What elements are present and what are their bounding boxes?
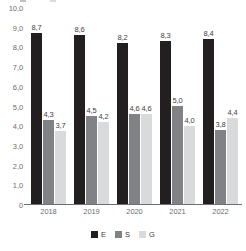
bar-slot-e: 8,4 [203,8,214,204]
chart-legend: ESG [0,231,246,239]
bar-e-2019[interactable]: 8,6 [74,35,85,204]
bar-value-label: 4,6 [141,104,151,113]
y-axis-tick: 1,0 [13,181,23,190]
bar-slot-g: 4,2 [98,8,109,204]
legend-label: S [125,231,130,239]
y-axis-tick: 0 [19,201,23,210]
y-axis-tick: 3,0 [13,141,23,150]
bar-slot-s: 3,8 [215,8,226,204]
x-axis-tick-2021: 2021 [156,207,199,216]
bar-e-2021[interactable]: 8,3 [160,41,171,204]
y-axis-tick: 2,0 [13,161,23,170]
bar-slot-g: 4,0 [184,8,195,204]
bar-value-label: 3,7 [55,121,65,130]
bar-slot-s: 4,5 [86,8,97,204]
x-axis-tick-2020: 2020 [113,207,156,216]
bar-slot-e: 8,2 [117,8,128,204]
bar-g-2021[interactable]: 4,0 [184,126,195,204]
bar-e-2022[interactable]: 8,4 [203,39,214,204]
cropped-legend-artifact [20,0,90,2]
bar-g-2020[interactable]: 4,6 [141,114,152,204]
y-axis-tick: 10,0 [9,4,23,13]
bar-s-2022[interactable]: 3,8 [215,130,226,204]
legend-item-g[interactable]: G [139,231,155,239]
bar-value-label: 8,7 [31,23,41,32]
bar-e-2018[interactable]: 8,7 [31,33,42,204]
bar-slot-g: 3,7 [55,8,66,204]
y-axis-tick: 7,0 [13,63,23,72]
legend-swatch-s-icon [115,231,122,238]
bar-s-2020[interactable]: 4,6 [129,114,140,204]
bar-slot-e: 8,7 [31,8,42,204]
bar-value-label: 4,5 [86,106,96,115]
bar-group: 8,64,54,2 [70,8,113,204]
bar-value-label: 4,2 [98,112,108,121]
legend-swatch-g-icon [139,231,146,238]
bar-group: 8,74,33,7 [27,8,70,204]
bar-value-label: 8,3 [160,31,170,40]
bar-groups: 8,74,33,78,64,54,28,24,64,68,35,04,08,43… [27,8,242,204]
bar-s-2019[interactable]: 4,5 [86,116,97,204]
y-axis-tick: 6,0 [13,82,23,91]
bar-slot-g: 4,6 [141,8,152,204]
plot-area: 8,74,33,78,64,54,28,24,64,68,35,04,08,43… [27,8,242,205]
bar-value-label: 4,0 [184,116,194,125]
y-axis: 10,09,08,07,06,05,04,03,02,01,00 [0,8,26,205]
bar-value-label: 8,6 [74,25,84,34]
legend-item-s[interactable]: S [115,231,130,239]
bar-group: 8,43,84,4 [199,8,242,204]
bar-slot-s: 5,0 [172,8,183,204]
plot-wrapper: 10,09,08,07,06,05,04,03,02,01,00 8,74,33… [0,8,246,213]
bar-value-label: 4,3 [43,110,53,119]
bar-group: 8,24,64,6 [113,8,156,204]
bar-slot-s: 4,6 [129,8,140,204]
legend-swatch-artifact-s [50,0,56,2]
y-axis-tick: 5,0 [13,102,23,111]
bar-e-2020[interactable]: 8,2 [117,43,128,204]
bar-g-2018[interactable]: 3,7 [55,131,66,204]
legend-label: E [101,231,106,239]
bar-slot-e: 8,3 [160,8,171,204]
x-axis-tick-2019: 2019 [70,207,113,216]
x-axis-baseline [24,204,242,205]
bar-value-label: 5,0 [172,96,182,105]
legend-swatch-artifact-e [20,0,26,2]
bar-slot-s: 4,3 [43,8,54,204]
legend-item-e[interactable]: E [91,231,106,239]
legend-label: G [149,231,155,239]
bar-s-2021[interactable]: 5,0 [172,106,183,204]
bar-value-label: 8,2 [117,33,127,42]
bar-g-2022[interactable]: 4,4 [227,118,238,204]
bar-value-label: 4,4 [227,108,237,117]
legend-swatch-e-icon [91,231,98,238]
x-axis-tick-2022: 2022 [199,207,242,216]
y-axis-tick: 4,0 [13,122,23,131]
bar-value-label: 8,4 [203,29,213,38]
bar-value-label: 4,6 [129,104,139,113]
y-axis-tick: 9,0 [13,23,23,32]
bar-slot-e: 8,6 [74,8,85,204]
bar-value-label: 3,8 [215,120,225,129]
bar-group: 8,35,04,0 [156,8,199,204]
bar-slot-g: 4,4 [227,8,238,204]
esg-bar-chart: 10,09,08,07,06,05,04,03,02,01,00 8,74,33… [0,0,246,251]
x-axis-tick-2018: 2018 [27,207,70,216]
bar-s-2018[interactable]: 4,3 [43,120,54,204]
y-axis-tick: 8,0 [13,43,23,52]
bar-g-2019[interactable]: 4,2 [98,122,109,204]
x-axis: 20182019202020212022 [27,207,242,216]
